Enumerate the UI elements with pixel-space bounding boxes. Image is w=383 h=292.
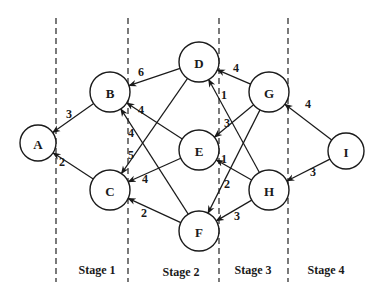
node-label: I [343,145,348,160]
node-c: C [90,170,130,210]
node-g: G [249,72,289,112]
stage-label: Stage 1 [79,263,116,277]
edge-weight-label: 1 [221,152,227,166]
edge-weight-label: 3 [310,165,316,179]
node-label: G [264,86,274,101]
node-label: C [105,184,114,199]
node-i: I [328,133,364,169]
edge-weight-label: 4 [138,103,144,117]
edge-weight-label: 2 [59,155,65,169]
edge-weight-label: 4 [233,61,239,75]
node-d: D [179,42,219,82]
edge-weight-label: 2 [141,206,147,220]
edge-i-h [287,159,330,181]
node-b: B [90,72,130,112]
node-label: E [195,144,204,159]
edge-weight-label: 3 [234,209,240,223]
edge-f-c [128,198,181,222]
node-label: D [194,56,203,71]
stage-dividers [56,18,288,282]
node-a: A [20,125,56,161]
node-label: A [33,137,43,152]
edge-weight-label: 1 [221,88,227,102]
stage-label: Stage 2 [163,265,200,279]
stage-label: Stage 4 [308,263,345,277]
node-label: B [106,86,115,101]
edge-weight-label: 6 [138,65,144,79]
edge-weight-label: 2 [224,177,230,191]
edge-weight-label: 4 [128,126,134,140]
node-e: E [179,130,219,170]
edge-g-e [214,105,253,137]
stage-label: Stage 3 [235,263,272,277]
edge-d-b [129,68,180,85]
edge-e-b [127,103,182,139]
node-f: F [179,211,219,251]
multistage-graph: ABCDEFGHI 3264454241312343 Stage 1Stage … [0,0,383,292]
node-label: F [195,225,203,240]
nodes: ABCDEFGHI [20,42,364,251]
edge-weight-label: 4 [305,97,311,111]
edge-weight-label: 3 [66,107,72,121]
edge-b-a [53,104,94,133]
stage-labels: Stage 1Stage 2Stage 3Stage 4 [79,263,345,279]
edge-weight-label: 4 [142,172,148,186]
node-label: H [264,184,274,199]
edge-weight-label: 3 [224,116,230,130]
edge-weight-label: 5 [128,148,134,162]
node-h: H [249,170,289,210]
